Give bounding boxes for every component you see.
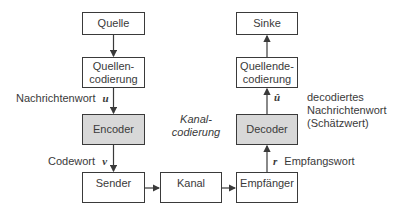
decoded-word-annotation: decodiertes Nachrichtenwort (Schätzwert) (307, 91, 386, 130)
message-symbol: u (103, 92, 109, 104)
source-decoding-box: Quellende- codierung (236, 57, 298, 88)
received-symbol: r (273, 155, 277, 167)
source-coding-label-2: codierung (89, 73, 137, 86)
sink-label: Sinke (253, 17, 281, 30)
source-decoding-label-1: Quellende- (240, 60, 294, 73)
encoder-label: Encoder (93, 123, 134, 136)
source-coding-box: Quellen- codierung (82, 57, 145, 88)
code-word-annotation: Codewort v (48, 155, 107, 168)
received-word-label: Empfangswort (284, 155, 354, 167)
source-decoding-label-2: codierung (243, 73, 291, 86)
message-word-annotation: Nachrichtenwort u (16, 92, 109, 105)
encoder-box: Encoder (82, 114, 145, 145)
channel-label: Kanal (177, 177, 205, 190)
code-word-label: Codewort (48, 155, 95, 167)
decoder-label: Decoder (246, 123, 288, 136)
received-word-annotation: r Empfangswort (273, 155, 355, 168)
channel-coding-annotation: Kanal- codierung (165, 113, 227, 139)
transmitter-box: Sender (82, 172, 145, 203)
transmitter-label: Sender (96, 177, 131, 190)
decoder-box: Decoder (236, 114, 298, 145)
code-symbol: v (102, 155, 107, 167)
channel-coding-line-1: Kanal- (165, 113, 227, 126)
receiver-box: Empfänger (236, 172, 298, 203)
decoded-line-2: Nachrichtenwort (307, 104, 386, 117)
decoded-line-1: decodiertes (307, 91, 386, 104)
source-box: Quelle (82, 12, 145, 35)
channel-coding-line-2: codierung (165, 126, 227, 139)
message-word-label: Nachrichtenwort (16, 92, 95, 104)
channel-box: Kanal (160, 172, 222, 203)
source-label: Quelle (98, 17, 130, 30)
receiver-label: Empfänger (240, 177, 294, 190)
estimate-symbol: û (274, 91, 280, 104)
source-coding-label-1: Quellen- (93, 60, 135, 73)
decoded-line-3: (Schätzwert) (307, 117, 386, 130)
sink-box: Sinke (236, 12, 298, 35)
